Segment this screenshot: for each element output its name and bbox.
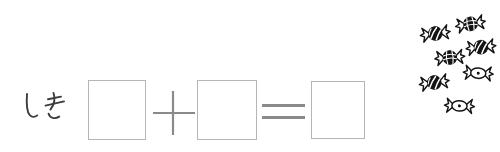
answer-box-addend-2[interactable] xyxy=(197,80,257,140)
candy-swirl-icon xyxy=(445,27,481,50)
answer-box-sum[interactable] xyxy=(311,81,365,139)
equals-icon xyxy=(260,101,308,123)
equation-label xyxy=(20,90,68,132)
answer-box-addend-1[interactable] xyxy=(88,80,146,140)
equation-label-text: しき xyxy=(0,0,1,1)
candy-knot-icon xyxy=(434,4,471,30)
candy-plain-icon xyxy=(444,51,479,73)
worksheet-fragment: しき xyxy=(0,0,500,152)
candy-swirl-icon xyxy=(399,14,435,39)
candy-plain-icon xyxy=(425,84,460,106)
plus-icon xyxy=(151,89,197,137)
